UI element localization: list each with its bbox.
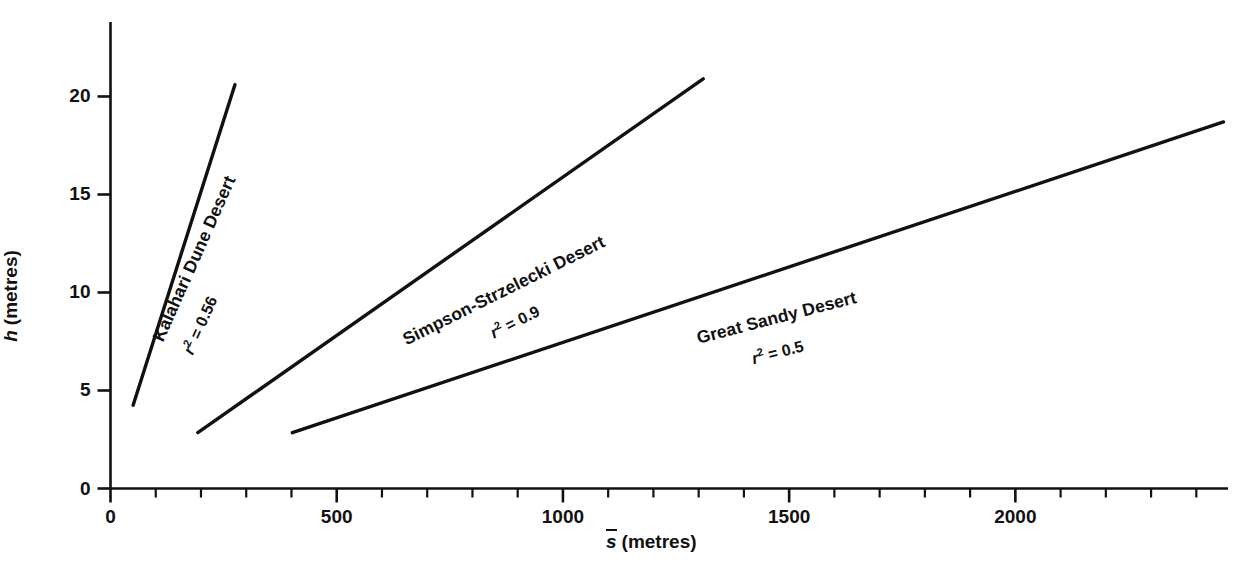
y-tick-label: 5 xyxy=(0,379,91,401)
y-tick-label: 0 xyxy=(0,478,91,500)
x-tick-label: 0 xyxy=(51,506,171,528)
x-axis-unit: (metres) xyxy=(622,531,697,552)
y-tick-label: 20 xyxy=(0,85,91,107)
chart-tick-marks xyxy=(98,96,1197,502)
y-axis-symbol: h xyxy=(0,330,22,342)
y-tick-label: 15 xyxy=(0,183,91,205)
y-axis-unit: (metres) xyxy=(0,250,21,325)
x-tick-label: 1000 xyxy=(503,506,623,528)
series-line-0 xyxy=(133,85,235,405)
x-tick-label: 2000 xyxy=(955,506,1075,528)
y-axis-title: h(metres) xyxy=(0,250,22,342)
chart-axes xyxy=(111,22,1229,489)
x-axis-title: s(metres) xyxy=(606,531,697,553)
x-axis-symbol: s xyxy=(606,531,617,553)
chart-figure: 05101520 0500100015002000 h(metres) s(me… xyxy=(0,0,1237,569)
x-tick-label: 500 xyxy=(277,506,397,528)
series-line-2 xyxy=(292,122,1223,433)
x-tick-label: 1500 xyxy=(729,506,849,528)
chart-series-lines xyxy=(133,79,1223,433)
